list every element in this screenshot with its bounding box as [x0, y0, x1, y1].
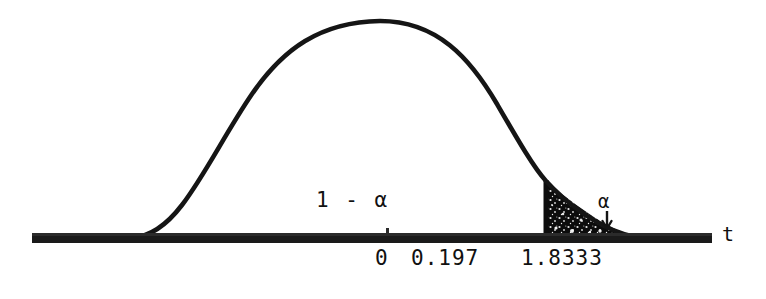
x-axis-label: t [722, 224, 734, 244]
x-tick-label-observed: 0.197 [411, 248, 479, 269]
x-tick-label-0: 0 [375, 248, 389, 269]
tick-mark-zero [386, 228, 389, 234]
confidence-region-label: 1 - α [316, 190, 389, 211]
x-tick-label-critical: 1.8333 [521, 248, 603, 269]
density-curve [131, 21, 655, 239]
t-distribution-figure: 1 - α α t 0 0.197 1.8333 [0, 0, 766, 299]
alpha-region-label: α [598, 192, 609, 211]
